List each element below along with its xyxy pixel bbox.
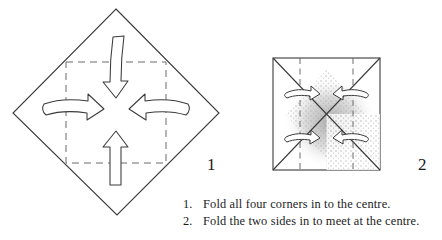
step-number-2: 2	[418, 156, 427, 173]
step-number-1: 1	[207, 156, 216, 173]
caption-list: 1. Fold all four corners in to the centr…	[183, 196, 439, 230]
caption-item-text: Fold the two sides in to meet at the cen…	[203, 213, 439, 230]
caption-item: 1. Fold all four corners in to the centr…	[183, 196, 439, 213]
caption-item-number: 2.	[183, 213, 203, 230]
caption-item-number: 1.	[183, 196, 203, 213]
diagram-1	[13, 9, 219, 215]
caption-item: 2. Fold the two sides in to meet at the …	[183, 213, 439, 230]
diagram-2	[273, 58, 380, 170]
caption-item-text: Fold all four corners in to the centre.	[203, 196, 439, 213]
figure-page: 1 2 1. Fold all four corners in to the c…	[0, 0, 442, 240]
